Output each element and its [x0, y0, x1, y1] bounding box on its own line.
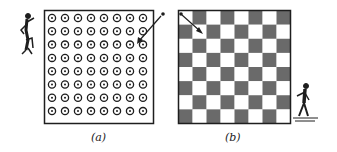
- checker-cell: [249, 67, 263, 81]
- checker-cell: [263, 95, 277, 109]
- checker-cell: [207, 81, 221, 95]
- checker-cell: [207, 11, 221, 25]
- person-walking-icon: [293, 84, 318, 122]
- checker-cell: [249, 11, 263, 25]
- panel-a-frame: [45, 11, 154, 124]
- checker-cell: [263, 39, 277, 53]
- caption-a: (a): [91, 131, 106, 144]
- checker-cell: [235, 81, 249, 95]
- panel-a-dots: [48, 14, 146, 114]
- checker-cell: [207, 109, 221, 123]
- checker-cell: [221, 11, 235, 25]
- checker-cell: [207, 39, 221, 53]
- checker-cell: [277, 53, 291, 67]
- checker-cell: [277, 95, 291, 109]
- checker-cell: [277, 81, 291, 95]
- checker-cell: [235, 67, 249, 81]
- checker-cell: [263, 53, 277, 67]
- checker-cell: [207, 95, 221, 109]
- checker-cell: [235, 53, 249, 67]
- checker-cell: [193, 53, 207, 67]
- checker-cell: [249, 25, 263, 39]
- checker-cell: [193, 39, 207, 53]
- checker-cell: [221, 109, 235, 123]
- checker-cell: [249, 39, 263, 53]
- particle-dot-icon: [161, 12, 165, 16]
- checker-cell: [235, 95, 249, 109]
- checker-cell: [249, 81, 263, 95]
- arrow-line: [139, 16, 161, 41]
- checker-cell: [235, 25, 249, 39]
- checker-cell: [207, 25, 221, 39]
- checker-cell: [221, 53, 235, 67]
- checker-cell: [193, 81, 207, 95]
- checker-cell: [235, 39, 249, 53]
- checker-cell: [221, 39, 235, 53]
- checker-cell: [179, 39, 193, 53]
- caption-b: (b): [225, 131, 241, 144]
- checker-cell: [263, 81, 277, 95]
- checker-cell: [277, 11, 291, 25]
- checker-cell: [249, 95, 263, 109]
- checker-cell: [221, 95, 235, 109]
- checker-cell: [263, 109, 277, 123]
- checker-cell: [179, 67, 193, 81]
- checker-cell: [277, 109, 291, 123]
- checker-cell: [193, 109, 207, 123]
- checker-cell: [235, 11, 249, 25]
- checker-cell: [277, 25, 291, 39]
- checker-cell: [277, 67, 291, 81]
- checker-cell: [249, 109, 263, 123]
- checker-cell: [221, 25, 235, 39]
- checker-cell: [179, 53, 193, 67]
- checker-cell: [207, 53, 221, 67]
- checker-cell: [179, 95, 193, 109]
- checker-cell: [179, 109, 193, 123]
- checker-cell: [193, 95, 207, 109]
- checker-cell: [249, 53, 263, 67]
- checker-cell: [221, 81, 235, 95]
- checker-cell: [193, 67, 207, 81]
- checker-cell: [179, 81, 193, 95]
- checker-cell: [263, 25, 277, 39]
- checker-cell: [263, 67, 277, 81]
- checker-cell: [179, 25, 193, 39]
- checker-cell: [207, 67, 221, 81]
- figure: [0, 0, 337, 152]
- checker-cell: [193, 11, 207, 25]
- checker-cell: [221, 67, 235, 81]
- person-climbing-icon: [21, 14, 34, 55]
- checker-cell: [263, 11, 277, 25]
- checker-cell: [235, 109, 249, 123]
- checker-cell: [277, 39, 291, 53]
